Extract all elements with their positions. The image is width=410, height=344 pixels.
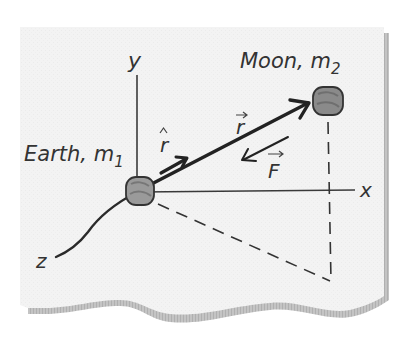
earth-body [126, 177, 154, 205]
y-axis-label: y [127, 48, 142, 73]
x-axis-label: x [359, 178, 372, 202]
moon-body [313, 87, 343, 115]
z-axis-label: z [35, 249, 47, 273]
gravitation-diagram: y x z r r F [0, 0, 410, 344]
svg-text:F: F [268, 159, 280, 183]
